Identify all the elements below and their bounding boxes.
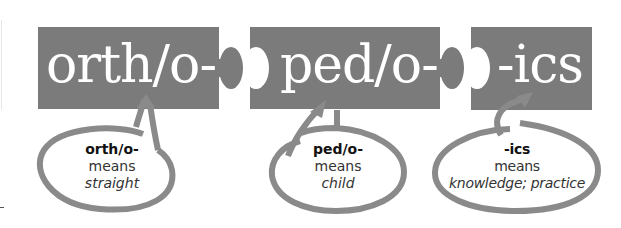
word-parts-diagram: orth/o- ped/o- -ics orth/o- means straig… <box>0 0 621 228</box>
definition-means: means <box>60 158 164 175</box>
term-ics: -ics <box>497 38 583 90</box>
definition-meaning: knowledge; practice <box>434 175 600 192</box>
definition-orth: orth/o- means straight <box>60 141 164 192</box>
term-orth: orth/o- <box>46 38 216 90</box>
definition-word: -ics <box>434 141 600 158</box>
definition-meaning: child <box>286 175 390 192</box>
definition-ped: ped/o- means child <box>286 141 390 192</box>
definition-word: ped/o- <box>286 141 390 158</box>
definition-word: orth/o- <box>60 141 164 158</box>
definition-means: means <box>286 158 390 175</box>
definition-ics: -ics means knowledge; practice <box>434 141 600 192</box>
term-ped: ped/o- <box>280 38 438 90</box>
definition-meaning: straight <box>60 175 164 192</box>
definition-means: means <box>434 158 600 175</box>
